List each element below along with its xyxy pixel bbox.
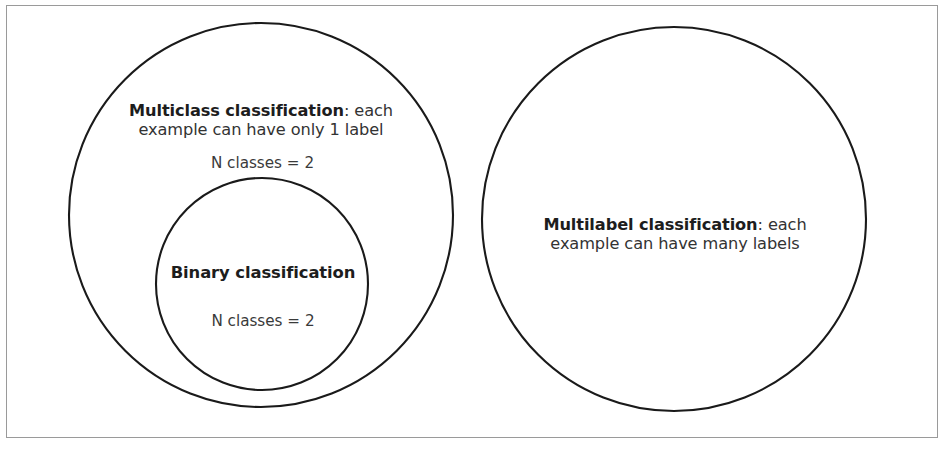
binary-nclasses-label: N classes = 2 — [157, 313, 369, 331]
binary-circle — [156, 178, 368, 390]
multiclass-label: Multiclass classification: each example … — [94, 82, 428, 139]
multilabel-label: Multilabel classification: each example … — [507, 196, 843, 253]
multiclass-nclasses-label: N classes = 2 — [120, 155, 405, 173]
binary-title: Binary classification — [157, 263, 369, 282]
multiclass-title: Multiclass classification — [129, 101, 344, 120]
diagram-figure: Multiclass classification: each example … — [0, 0, 947, 449]
multilabel-title: Multilabel classification — [543, 215, 757, 234]
multiclass-circle — [69, 23, 453, 407]
